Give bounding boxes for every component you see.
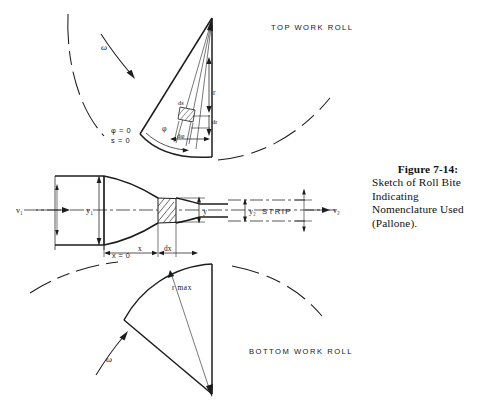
label-s-zero: s = 0 — [111, 136, 130, 145]
omega-top-arrow: ω — [101, 34, 135, 79]
label-phi: φ — [162, 124, 167, 133]
dimension-dr: dr — [191, 115, 218, 136]
label-ds: ds — [178, 99, 184, 106]
label-omega-top: ω — [101, 42, 107, 52]
label-y2: y₂ — [249, 207, 256, 216]
differential-element-top — [173, 101, 199, 128]
label-bottom-work-roll: BOTTOM WORK ROLL — [249, 347, 353, 356]
label-v2: v₂ — [333, 206, 340, 215]
label-dx: dx — [164, 244, 172, 253]
label-d-phi: dφ — [177, 132, 184, 139]
label-v1: v₁ — [16, 206, 23, 215]
figure-page: r dr ds dφ — [0, 0, 488, 411]
differential-element-strip — [147, 190, 183, 234]
omega-bottom-arrow: ω — [96, 331, 128, 375]
origin-annotations-top: φ = 0 s = 0 — [111, 126, 131, 145]
bottom-roll-sector — [124, 264, 213, 397]
figure-caption: Figure 7-14: Sketch of Roll Bite Indicat… — [372, 163, 484, 230]
caption-text: Sketch of Roll Bite Indicating Nomenclat… — [372, 176, 484, 230]
label-x-zero: x = 0 — [112, 251, 130, 260]
label-top-work-roll: TOP WORK ROLL — [271, 23, 354, 32]
label-x: x — [138, 244, 142, 253]
dimension-y2-strip: y₂ STRIP — [243, 199, 292, 223]
dimension-d-phi: dφ — [170, 121, 210, 144]
top-roll-element-radii — [176, 19, 212, 149]
roll-bite-diagram: r dr ds dφ — [0, 0, 360, 411]
label-y-mid: y — [203, 207, 207, 216]
label-r: r — [213, 88, 216, 97]
dimension-y1: y₁ — [86, 176, 101, 245]
dimension-r: r — [206, 57, 216, 113]
label-r-max: r max — [172, 283, 192, 292]
velocity-exit: v₂ — [295, 189, 340, 233]
label-y1: y₁ — [86, 206, 93, 215]
diagram-svg: r dr ds dφ — [0, 0, 360, 411]
label-phi-zero: φ = 0 — [111, 126, 131, 135]
extension-lines-entry — [55, 176, 104, 250]
caption-figure-number: Figure 7-14: — [372, 163, 484, 176]
top-roll-outline — [68, 14, 330, 160]
label-omega-bottom: ω — [106, 354, 112, 364]
label-dr: dr — [212, 118, 218, 125]
label-strip: STRIP — [262, 207, 292, 216]
